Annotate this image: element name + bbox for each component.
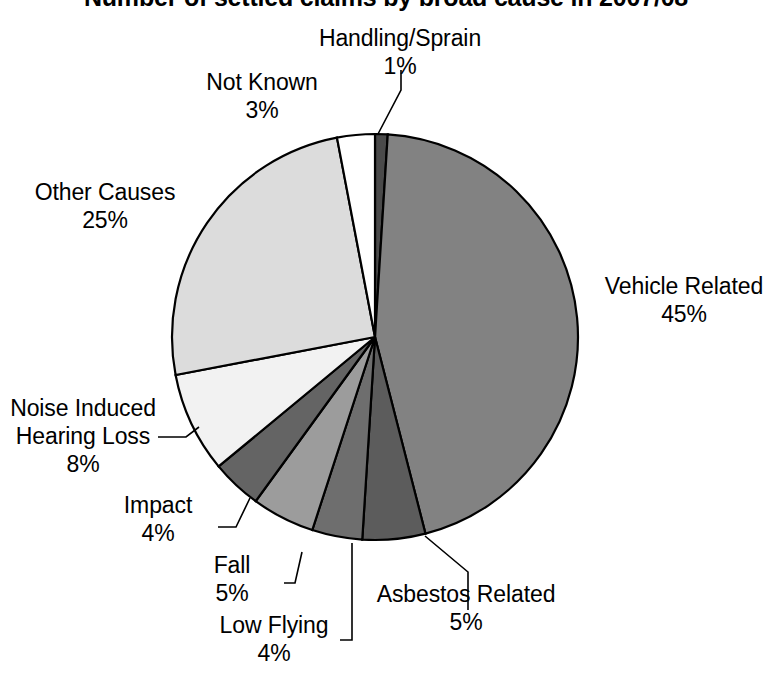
pie-label-fall-pct: 5%	[178, 579, 286, 607]
leader-line-impact	[218, 498, 250, 527]
pie-label-low-flying-pct: 4%	[200, 639, 348, 667]
pie-label-other-causes-pct: 25%	[6, 206, 204, 234]
pie-label-not-known-name: Not Known	[172, 68, 352, 96]
pie-label-impact-name: Impact	[94, 491, 222, 519]
pie-label-vehicle-related-name: Vehicle Related	[596, 272, 772, 300]
pie-label-noise-induced-hearing-loss: Noise Induced Hearing Loss 8%	[0, 394, 166, 478]
pie-label-asbestos-related: Asbestos Related 5%	[358, 580, 574, 636]
pie-label-other-causes-name: Other Causes	[6, 178, 204, 206]
pie-label-impact: Impact 4%	[94, 491, 222, 547]
pie-label-low-flying: Low Flying 4%	[200, 611, 348, 667]
pie-label-asbestos-related-pct: 5%	[358, 608, 574, 636]
pie-label-noise-induced-line1: Noise Induced	[0, 394, 166, 422]
pie-label-not-known-pct: 3%	[172, 96, 352, 124]
pie-label-vehicle-related: Vehicle Related 45%	[596, 272, 772, 328]
pie-slices	[172, 134, 578, 540]
pie-label-asbestos-related-name: Asbestos Related	[358, 580, 574, 608]
pie-label-noise-induced-line2: Hearing Loss	[0, 422, 166, 450]
pie-label-fall-name: Fall	[178, 551, 286, 579]
leader-line-fall	[284, 552, 302, 583]
pie-chart-figure: Number of settled claims by broad cause …	[0, 0, 772, 697]
pie-label-handling-sprain-name: Handling/Sprain	[292, 24, 508, 52]
pie-label-low-flying-name: Low Flying	[200, 611, 348, 639]
pie-label-vehicle-related-pct: 45%	[596, 300, 772, 328]
pie-label-noise-induced-pct: 8%	[0, 450, 166, 478]
pie-label-other-causes: Other Causes 25%	[6, 178, 204, 234]
pie-label-not-known: Not Known 3%	[172, 68, 352, 124]
pie-label-impact-pct: 4%	[94, 519, 222, 547]
pie-label-fall: Fall 5%	[178, 551, 286, 607]
